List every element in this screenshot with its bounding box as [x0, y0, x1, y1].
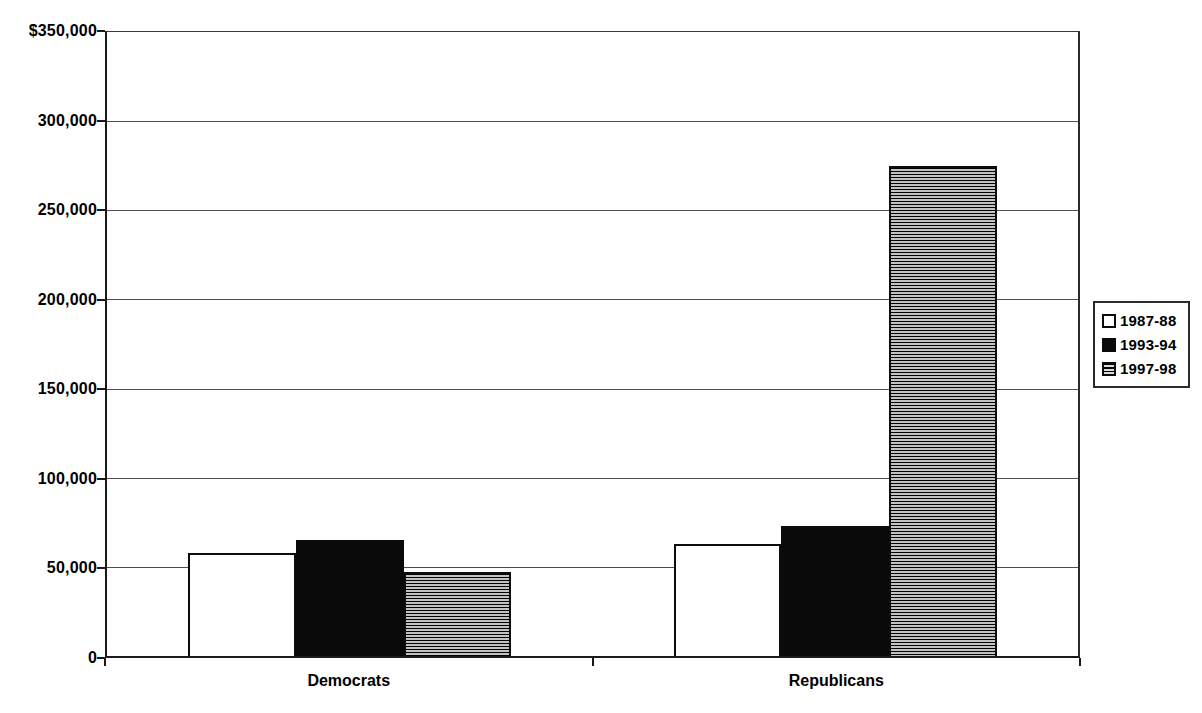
y-tick-label: 150,000 [0, 380, 97, 398]
bar-republicans-1997-98 [889, 166, 997, 656]
bar-republicans-1987-88 [674, 544, 782, 656]
legend-swatch-hstripe-icon [1102, 362, 1116, 376]
bar-democrats-1993-94 [296, 540, 404, 656]
y-tick-label: 250,000 [0, 201, 97, 219]
category-label-republicans: Republicans [593, 672, 1081, 702]
y-tick-label: 300,000 [0, 112, 97, 130]
y-axis-tick [97, 388, 105, 390]
y-tick-label: 50,000 [0, 559, 97, 577]
y-axis-tick [97, 567, 105, 569]
x-axis-tick [104, 658, 106, 666]
bar-republicans-1993-94 [781, 526, 889, 656]
x-axis-tick [592, 658, 594, 666]
bar-group-republicans [593, 32, 1079, 656]
legend-item-1993-94: 1993-94 [1102, 336, 1180, 353]
x-axis-tick [1079, 658, 1081, 666]
y-tick-label: 0 [0, 649, 97, 667]
y-tick-label: $350,000 [0, 22, 97, 40]
bar-democrats-1997-98 [404, 572, 512, 656]
y-axis: $350,000300,000250,000200,000150,000100,… [0, 31, 97, 658]
legend-label: 1993-94 [1120, 336, 1176, 353]
legend-label: 1997-98 [1120, 360, 1176, 377]
legend-item-1987-88: 1987-88 [1102, 312, 1180, 329]
bar-democrats-1987-88 [188, 553, 296, 656]
y-axis-tick [97, 299, 105, 301]
y-tick-label: 100,000 [0, 470, 97, 488]
category-label-democrats: Democrats [105, 672, 593, 702]
legend: 1987-881993-941997-98 [1093, 301, 1190, 388]
bar-chart: $350,000300,000250,000200,000150,000100,… [0, 0, 1202, 713]
y-axis-tick [97, 120, 105, 122]
y-axis-tick [97, 30, 105, 32]
x-axis: DemocratsRepublicans [105, 672, 1080, 702]
y-axis-tick [97, 209, 105, 211]
legend-swatch-black-icon [1102, 338, 1116, 352]
legend-label: 1987-88 [1120, 312, 1176, 329]
bar-group-democrats [107, 32, 593, 656]
y-axis-tick [97, 478, 105, 480]
plot-area [105, 31, 1080, 658]
legend-swatch-white-icon [1102, 314, 1116, 328]
legend-item-1997-98: 1997-98 [1102, 360, 1180, 377]
y-tick-label: 200,000 [0, 291, 97, 309]
